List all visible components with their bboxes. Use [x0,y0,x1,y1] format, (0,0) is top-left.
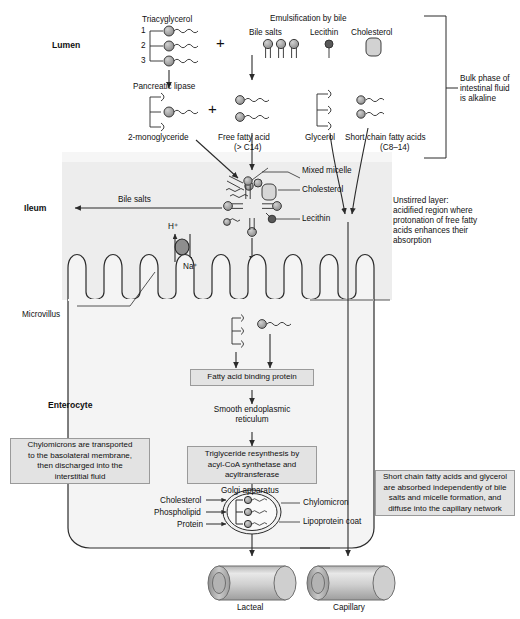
bile-salt-icons [263,39,298,58]
capillary-label: Capillary [333,603,365,613]
micelle-lecithin-label: Lecithin [302,214,330,224]
short-chain-label: Short chain fatty acids [345,133,426,143]
tag-position-2: 2 [141,41,146,51]
region-label-enterocyte: Enterocyte [48,400,92,410]
golgi-apparatus-label: Golgi apparatus [221,486,279,496]
mixed-micelle-label: Mixed micelle [302,166,352,176]
short-chain-sublabel: (C8–14) [380,143,410,153]
bile-salts-label: Bile salts [249,28,282,38]
chylomicron-input-phospholipid: Phospholipid [154,508,201,518]
free-fatty-acid-label: Free fatty acid [218,133,270,143]
tag-position-3: 3 [141,56,146,66]
chylomicron-transport-note: Chylomicrons are transported to the baso… [10,438,150,484]
monoglyceride-molecule [150,93,198,131]
lacteal-label: Lacteal [237,603,263,613]
emulsification-title: Emulsification by bile [270,14,346,24]
capillary-vessel [307,566,395,600]
tag-position-1: 1 [141,26,146,36]
smooth-er-label: Smooth endoplasmic reticulum [205,405,299,425]
lacteal-vessel [208,566,296,600]
region-label-lumen: Lumen [52,40,80,50]
pancreatic-lipase-label: Pancreatic lipase [133,82,195,92]
plus-sign-emulsification: + [216,38,225,48]
glycerol-label: Glycerol [305,133,335,143]
lecithin-label: Lecithin [310,28,338,38]
diagram-graphics [0,0,520,619]
bile-salts-recycle-label: Bile salts [118,195,151,205]
plus-sign-hydrolysis: + [208,104,217,114]
chylomicron-input-protein: Protein [177,520,203,530]
triacylglycerol-molecule [150,26,198,66]
unstirred-layer-note: Unstirred layer: acidified region where … [393,196,477,246]
cholesterol-icon [366,38,381,56]
free-fatty-acid-sublabel: (> C14) [234,143,262,153]
fatty-acid-binding-protein-box: Fatty acid binding protein [190,369,314,386]
lecithin-icon [325,40,333,58]
chylomicron-label: Chylomicron [303,498,349,508]
chylomicron-input-cholesterol: Cholesterol [160,496,201,506]
proton-label: H⁺ [168,222,178,232]
short-chain-fatty-acid-molecules [357,96,384,118]
bulk-phase-bracket [424,16,458,158]
region-label-ileum: Ileum [24,203,46,213]
bulk-phase-note: Bulk phase of intestinal fluid is alkali… [460,74,510,104]
triacylglycerol-label: Triacyglycerol [142,15,192,25]
glycerol-molecule [317,90,331,130]
free-fatty-acid-molecules [236,96,269,122]
lipoprotein-coat-label: Lipoprotein coat [303,517,361,527]
short-chain-absorption-note: Short chain fatty acids and glycerol are… [375,470,515,516]
region-label-microvillus: Microvillus [22,310,60,320]
cholesterol-label: Cholesterol [351,28,392,38]
micelle-cholesterol-label: Cholesterol [302,185,343,195]
figure-canvas: Lumen Ileum Microvillus Enterocyte Triac… [0,0,520,619]
monoglyceride-label: 2-monoglyceride [128,133,189,143]
triglyceride-resynthesis-box: Triglyceride resynthesis by acyl-CoA syn… [187,446,317,484]
sodium-label: Na⁺ [183,262,197,272]
